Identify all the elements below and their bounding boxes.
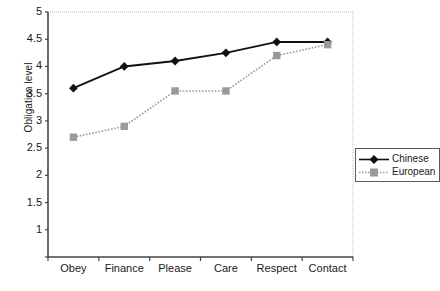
chart-legend: Chinese European <box>355 148 440 182</box>
legend-marker-diamond-icon <box>359 152 389 165</box>
data-point <box>121 123 128 130</box>
data-point <box>171 87 178 94</box>
x-tick-label: Care <box>214 262 238 274</box>
series-line <box>73 42 327 88</box>
data-point <box>171 57 180 66</box>
x-tick-label: Respect <box>257 262 297 274</box>
series-line <box>73 45 327 138</box>
data-point <box>273 52 280 59</box>
x-tick-label: Obey <box>60 262 86 274</box>
x-tick-label: Contact <box>309 262 347 274</box>
series-chinese <box>69 38 332 93</box>
data-point <box>69 84 78 93</box>
x-axis-tick-labels: ObeyFinancePleaseCareRespectContact <box>47 262 353 284</box>
x-tick-label: Finance <box>105 262 144 274</box>
axis-lines <box>48 12 353 257</box>
legend-label-chinese: Chinese <box>392 153 429 164</box>
data-point <box>120 62 129 71</box>
legend-marker-square-icon <box>359 165 389 178</box>
plot-border <box>48 12 353 257</box>
data-series-layer <box>69 38 332 141</box>
data-point <box>70 134 77 141</box>
x-tick-label: Please <box>158 262 192 274</box>
data-point <box>222 87 229 94</box>
data-point <box>324 41 331 48</box>
data-point <box>222 48 231 57</box>
legend-item-chinese: Chinese <box>359 152 435 165</box>
legend-label-european: European <box>392 166 435 177</box>
data-point <box>272 38 281 47</box>
legend-item-european: European <box>359 165 435 178</box>
